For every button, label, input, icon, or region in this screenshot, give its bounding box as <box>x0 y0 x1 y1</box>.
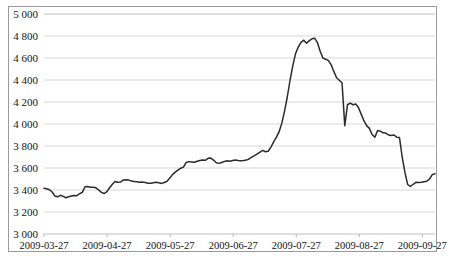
y-tick-label: 3 200 <box>13 206 38 218</box>
line-chart: 5 0004 8004 6004 4004 2004 0003 8003 600… <box>0 0 457 266</box>
y-tick-label: 4 200 <box>13 96 38 108</box>
y-tick-label: 3 400 <box>13 184 38 196</box>
y-tick-label: 4 400 <box>13 74 38 86</box>
y-tick-label: 5 000 <box>13 8 38 20</box>
y-tick-label: 3 000 <box>13 228 38 240</box>
y-axis-labels: 5 0004 8004 6004 4004 2004 0003 8003 600… <box>13 8 38 240</box>
x-tick-label: 2009-07-27 <box>272 240 321 251</box>
y-tick-label: 4 600 <box>13 52 38 64</box>
x-tick-label: 2009-06-27 <box>209 240 258 251</box>
gridlines <box>44 14 435 234</box>
x-tick-label: 2009-08-27 <box>335 240 384 251</box>
y-tick-label: 4 000 <box>13 118 38 130</box>
x-tick-label: 2009-04-27 <box>83 240 132 251</box>
x-tick-label: 2009-03-27 <box>20 240 69 251</box>
y-tick-label: 3 600 <box>13 162 38 174</box>
x-tick-label: 2009-05-27 <box>146 240 195 251</box>
data-series-price <box>44 38 435 198</box>
y-tick-label: 4 800 <box>13 30 38 42</box>
x-tick-label: 2009-09-27 <box>398 240 447 251</box>
chart-container: 5 0004 8004 6004 4004 2004 0003 8003 600… <box>0 0 457 266</box>
y-tick-label: 3 800 <box>13 140 38 152</box>
x-axis-labels: 2009-03-272009-04-272009-05-272009-06-27… <box>20 234 447 251</box>
